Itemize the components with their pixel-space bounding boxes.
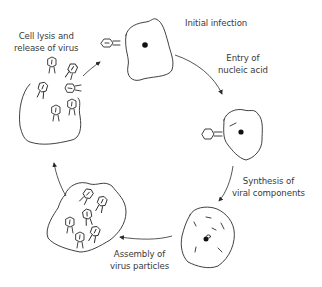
label-line: Entry of bbox=[218, 53, 268, 65]
label-line: virus particles bbox=[110, 261, 169, 273]
label-line: Synthesis of bbox=[232, 176, 305, 188]
cell-lysis bbox=[19, 57, 81, 144]
label-text: Initial infection bbox=[185, 18, 247, 28]
label-line: Assembly of bbox=[110, 249, 169, 261]
label-line: Cell lysis and bbox=[14, 31, 78, 43]
cell-assembly bbox=[47, 183, 126, 252]
label-line: viral components bbox=[232, 188, 305, 200]
label-line: release of virus bbox=[14, 43, 78, 55]
cell-entry bbox=[202, 109, 262, 160]
label-synthesis: Synthesis of viral components bbox=[232, 176, 305, 199]
cell-initial-infection bbox=[101, 19, 173, 81]
label-lysis: Cell lysis and release of virus bbox=[14, 31, 78, 54]
label-line: nucleic acid bbox=[218, 65, 268, 77]
cell-synthesis bbox=[181, 207, 234, 268]
nucleus-icon bbox=[238, 129, 243, 134]
label-assembly: Assembly of virus particles bbox=[110, 249, 169, 272]
label-entry: Entry of nucleic acid bbox=[218, 53, 268, 76]
label-initial-infection: Initial infection bbox=[185, 18, 247, 30]
phage-attaching-icon bbox=[101, 39, 120, 47]
cycle-arrows bbox=[54, 55, 233, 239]
nucleus-icon bbox=[142, 42, 148, 48]
phage-injecting-icon bbox=[202, 129, 222, 139]
